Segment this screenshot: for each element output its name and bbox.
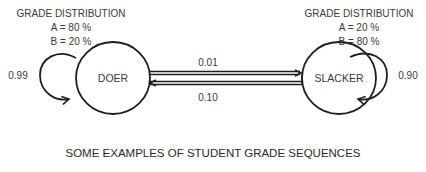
doer-state-label: DOER <box>98 72 129 84</box>
doer-self-loop-arrow <box>40 54 76 100</box>
doer-to-slacker-arrowhead <box>295 70 301 76</box>
caption: SOME EXAMPLES OF STUDENT GRADE SEQUENCES <box>65 147 360 159</box>
doer-self-loop-prob: 0.99 <box>8 70 28 81</box>
slacker-self-loop-prob: 0.90 <box>398 70 418 81</box>
slacker-distribution-title: GRADE DISTRIBUTION <box>305 8 414 19</box>
doer-grade-b: B = 20 % <box>51 36 92 47</box>
doer-grade-a: A = 80 % <box>51 22 91 33</box>
slacker-state-label: SLACKER <box>314 72 363 84</box>
slacker-to-doer-prob: 0.10 <box>198 92 218 103</box>
doer-to-slacker-prob: 0.01 <box>198 57 218 68</box>
markov-diagram: GRADE DISTRIBUTION A = 80 % B = 20 % GRA… <box>0 0 426 172</box>
slacker-grade-a: A = 20 % <box>339 22 379 33</box>
doer-distribution-title: GRADE DISTRIBUTION <box>17 8 126 19</box>
